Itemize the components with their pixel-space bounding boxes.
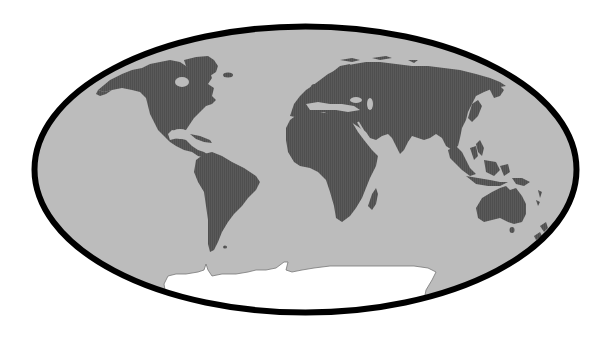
gulf-of-mexico xyxy=(171,129,189,139)
hudson-bay xyxy=(175,77,189,87)
world-map: North America Greenland South America Eu… xyxy=(0,0,610,339)
black-sea xyxy=(350,97,362,103)
falkland-islands xyxy=(223,246,227,249)
british-isles xyxy=(310,84,318,96)
tasmania xyxy=(510,227,515,233)
world-map-svg: North America Greenland South America Eu… xyxy=(0,0,610,339)
caspian-sea xyxy=(367,98,373,110)
iceland xyxy=(223,73,233,78)
